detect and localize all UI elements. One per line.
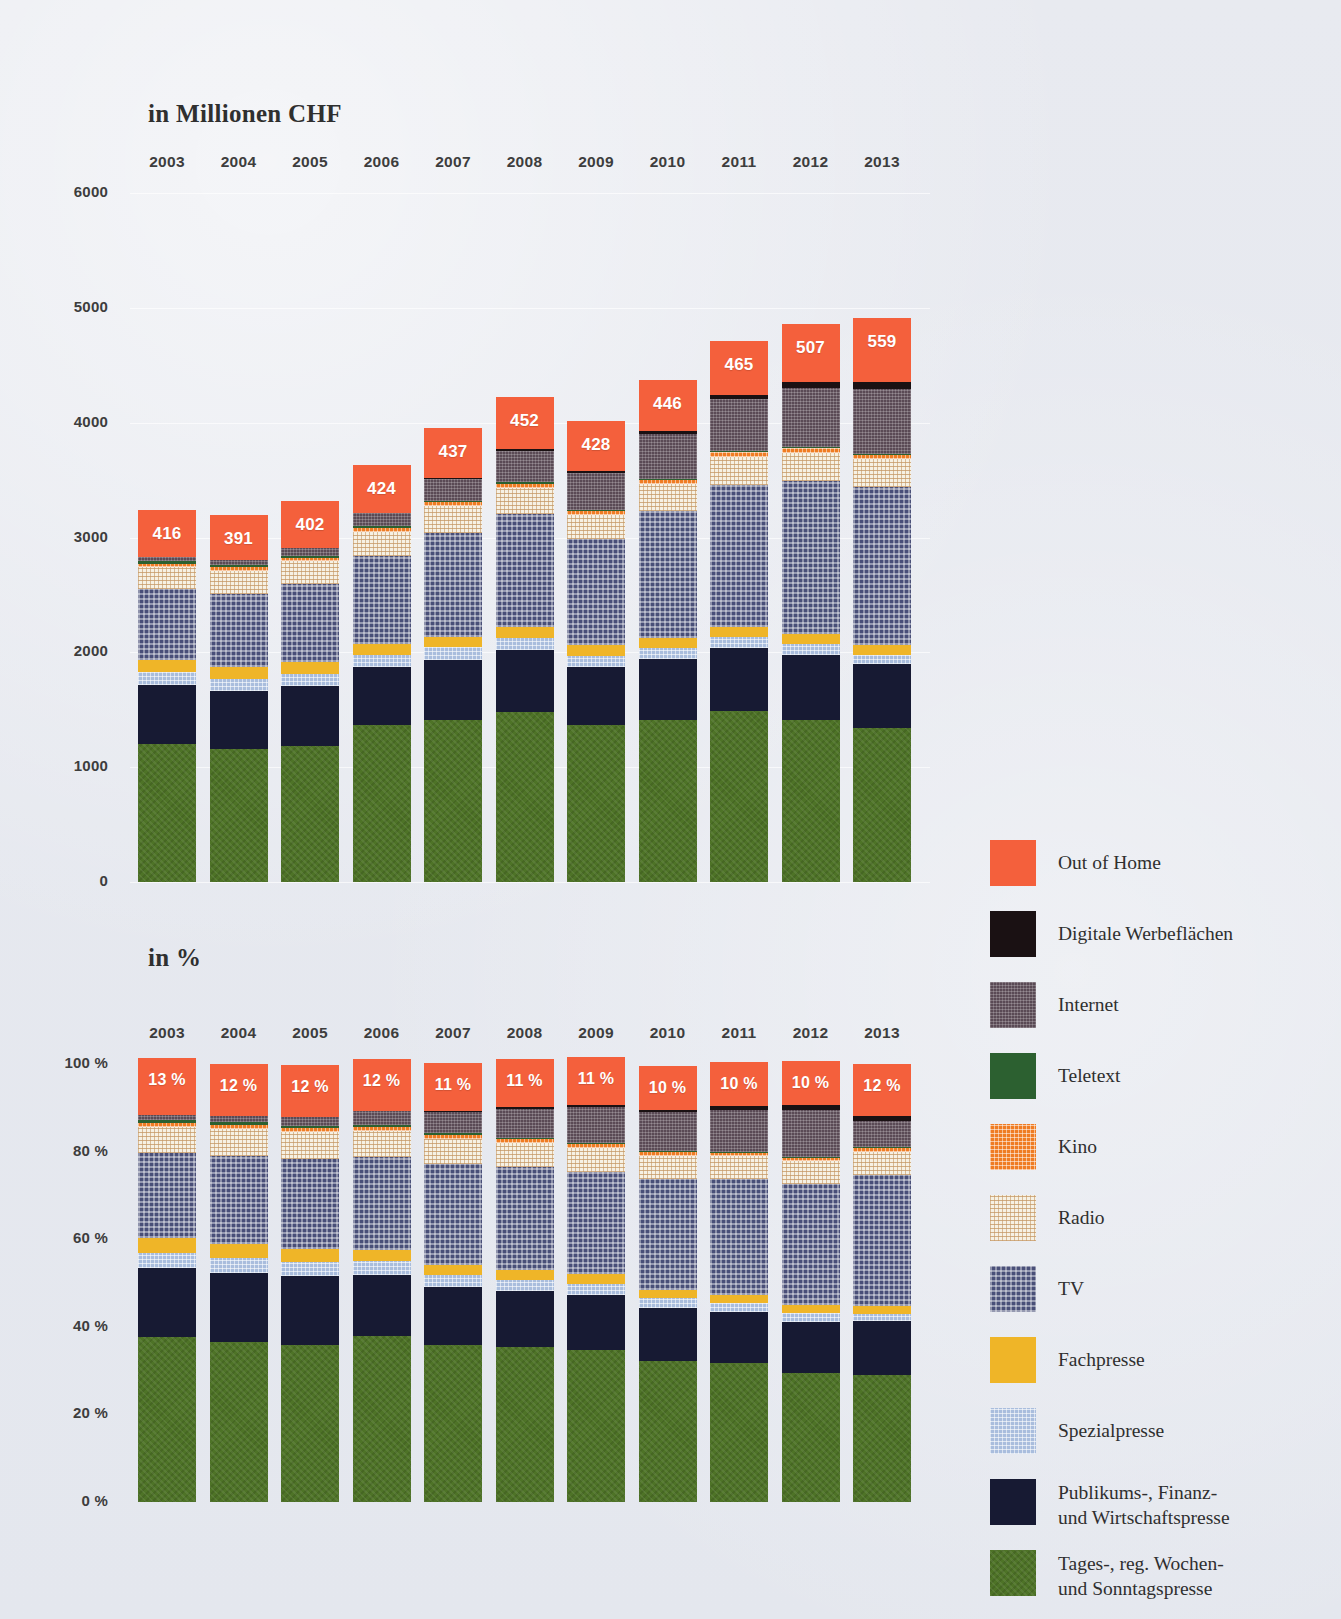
legend-label-out_of_home: Out of Home — [1058, 840, 1161, 874]
bar-segment-radio — [782, 1161, 840, 1184]
bar-2010[interactable]: 10 % — [639, 1066, 697, 1502]
bar-segment-teletext — [281, 1126, 339, 1128]
bar-2004[interactable]: 12 % — [210, 1064, 268, 1502]
x-tick-label-2008: 2008 — [490, 1024, 560, 1042]
bar-segment-radio — [567, 1148, 625, 1172]
bar-2011[interactable]: 10 % — [710, 1062, 768, 1502]
legend-label-tv: TV — [1058, 1266, 1084, 1300]
legend-swatch-internet — [990, 982, 1036, 1028]
legend-item-kino[interactable]: Kino — [990, 1124, 1290, 1172]
bar-segment-out-of-home: 10 % — [639, 1066, 697, 1110]
bar-segment-fachpresse — [353, 1250, 411, 1261]
bar-segment-internet — [639, 1112, 697, 1151]
x-tick-label-2007: 2007 — [418, 1024, 488, 1042]
legend-item-internet[interactable]: Internet — [990, 982, 1290, 1030]
legend-item-fachpresse[interactable]: Fachpresse — [990, 1337, 1290, 1385]
bar-segment-kino — [710, 1153, 768, 1157]
bar-value-label: 10 % — [639, 1079, 697, 1097]
bar-2006[interactable]: 12 % — [353, 1059, 411, 1502]
bar-value-label: 12 % — [353, 1072, 411, 1090]
bar-segment-tv — [496, 1167, 554, 1270]
bar-segment-tv — [782, 1184, 840, 1305]
chart-title-pct: in % — [148, 944, 201, 972]
bar-segment-spezialpresse — [210, 1258, 268, 1273]
legend-item-out_of_home[interactable]: Out of Home — [990, 840, 1290, 888]
bar-value-label: 12 % — [853, 1077, 911, 1095]
legend-item-tv[interactable]: TV — [990, 1266, 1290, 1314]
bar-segment-radio — [138, 1127, 196, 1154]
legend-swatch-publikums_finanz_wirtschaftspresse — [990, 1479, 1036, 1525]
bar-segment-teletext — [210, 1122, 268, 1125]
legend-label-fachpresse: Fachpresse — [1058, 1337, 1145, 1371]
legend-item-tages_wochen_sonntagspresse[interactable]: Tages-, reg. Wochen- und Sonntagspresse — [990, 1550, 1290, 1598]
bar-segment-digitale-werbeflaechen — [710, 1106, 768, 1110]
bar-segment-spezialpresse — [639, 1298, 697, 1308]
bar-segment-internet — [782, 1110, 840, 1157]
bar-segment-fachpresse — [424, 1265, 482, 1276]
bar-segment-internet — [853, 1121, 911, 1147]
bar-segment-teletext — [138, 1120, 196, 1123]
bar-2003[interactable]: 13 % — [138, 1058, 196, 1502]
bar-segment-fachpresse — [782, 1305, 840, 1313]
bar-segment-radio — [639, 1156, 697, 1180]
legend-swatch-kino — [990, 1124, 1036, 1170]
bar-2005[interactable]: 12 % — [281, 1064, 339, 1502]
legend-swatch-spezialpresse — [990, 1408, 1036, 1454]
bar-segment-out-of-home: 13 % — [138, 1058, 196, 1115]
bar-2013[interactable]: 12 % — [853, 1064, 911, 1502]
bar-segment-kino — [424, 1135, 482, 1139]
x-tick-label-2010: 2010 — [633, 1024, 703, 1042]
legend-swatch-out_of_home — [990, 840, 1036, 886]
bar-segment-fachpresse — [138, 1238, 196, 1252]
bar-segment-radio — [210, 1129, 268, 1157]
x-tick-label-2013: 2013 — [847, 1024, 917, 1042]
bar-2009[interactable]: 11 % — [567, 1057, 625, 1502]
legend-swatch-teletext — [990, 1053, 1036, 1099]
bar-segment-fachpresse — [496, 1270, 554, 1280]
bar-segment-internet — [281, 1117, 339, 1126]
bar-segment-radio — [353, 1131, 411, 1157]
bar-segment-kino — [210, 1125, 268, 1129]
bar-value-label: 12 % — [210, 1077, 268, 1095]
bar-segment-fachpresse — [639, 1290, 697, 1298]
bar-segment-tagespresse — [281, 1345, 339, 1502]
x-tick-label-2011: 2011 — [704, 1024, 774, 1042]
bar-2007[interactable]: 11 % — [424, 1063, 482, 1502]
y-tick-label: 0 % — [28, 1492, 108, 1509]
bar-segment-spezialpresse — [353, 1261, 411, 1275]
bar-segment-out-of-home: 12 % — [853, 1064, 911, 1117]
bar-segment-tagespresse — [496, 1347, 554, 1502]
bar-segment-tv — [567, 1172, 625, 1274]
legend-item-radio[interactable]: Radio — [990, 1195, 1290, 1243]
bar-segment-tagespresse — [567, 1350, 625, 1502]
legend-item-publikums_finanz_wirtschaftspresse[interactable]: Publikums-, Finanz- und Wirtschaftspress… — [990, 1479, 1290, 1527]
bar-value-label: 13 % — [138, 1071, 196, 1089]
bar-segment-out-of-home: 12 % — [281, 1065, 339, 1118]
x-tick-label-2006: 2006 — [347, 1024, 417, 1042]
bar-segment-kino — [567, 1144, 625, 1148]
legend-label-publikums_finanz_wirtschaftspresse: Publikums-, Finanz- und Wirtschaftspress… — [1058, 1479, 1230, 1530]
bar-segment-kino — [353, 1127, 411, 1131]
bar-2012[interactable]: 10 % — [782, 1061, 840, 1502]
bar-segment-tagespresse — [639, 1361, 697, 1502]
bar-segment-digitale-werbeflaechen — [496, 1107, 554, 1109]
bar-segment-teletext — [710, 1152, 768, 1153]
y-tick-label: 20 % — [28, 1404, 108, 1421]
bar-2008[interactable]: 11 % — [496, 1059, 554, 1502]
y-tick-label: 60 % — [28, 1229, 108, 1246]
bar-segment-fachpresse — [710, 1295, 768, 1303]
legend-item-spezialpresse[interactable]: Spezialpresse — [990, 1408, 1290, 1456]
legend-item-digitale_werbeflaechen[interactable]: Digitale Werbeflächen — [990, 911, 1290, 959]
x-tick-label-2009: 2009 — [561, 1024, 631, 1042]
bar-segment-tv — [639, 1179, 697, 1289]
legend-item-teletext[interactable]: Teletext — [990, 1053, 1290, 1101]
bar-segment-out-of-home: 10 % — [710, 1062, 768, 1106]
bar-segment-radio — [281, 1132, 339, 1158]
bar-segment-digitale-werbeflaechen — [639, 1110, 697, 1112]
bar-segment-fachpresse — [853, 1306, 911, 1313]
bar-value-label: 11 % — [567, 1070, 625, 1088]
bar-segment-publikumspresse — [353, 1275, 411, 1336]
bar-segment-publikumspresse — [853, 1321, 911, 1374]
bar-segment-radio — [853, 1152, 911, 1175]
infographic-page: in Millionen CHF 01000200030004000500060… — [0, 0, 1341, 1619]
